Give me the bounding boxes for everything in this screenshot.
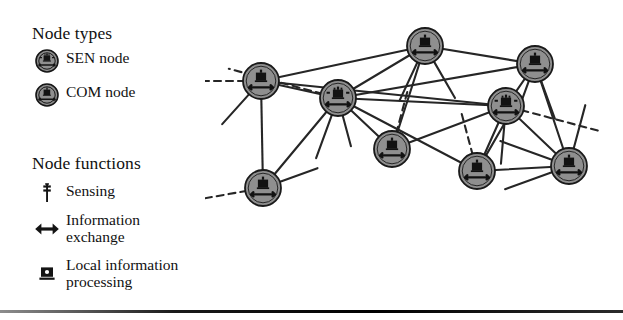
legend-label-com-node: COM node [62,83,135,100]
processing-unit-icon [32,256,62,292]
legend-panel: Node types SEN node [0,0,215,300]
legend-item-information-exchange: Information exchange [32,211,140,247]
network-edge-stub [505,171,554,189]
network-edge [338,98,506,106]
sensing-antenna-icon [32,182,62,204]
network-node-com[interactable] [551,148,587,184]
network-node-com[interactable] [459,153,495,189]
network-node-com[interactable] [245,170,281,206]
network-node-com[interactable] [374,131,410,167]
legend-label-local-processing: Local information processing [62,256,178,290]
legend-label-sen-node: SEN node [62,49,129,66]
bottom-divider-rule [0,310,623,313]
network-node-sen[interactable] [320,80,356,116]
legend-item-com-node: COM node [32,83,135,107]
sen-node-icon [32,49,62,73]
sensor-network-graph [205,8,623,220]
network-edge-stub [222,93,250,124]
com-node-icon [32,83,62,107]
bidirectional-arrow-icon [32,211,62,247]
network-edge-stub [521,110,600,131]
network-figure: Node types SEN node [0,0,623,320]
network-node-com[interactable] [243,63,279,99]
legend-label-sensing: Sensing [62,182,115,199]
network-node-com[interactable] [407,28,443,64]
network-node-com[interactable] [517,46,553,82]
legend-item-local-processing: Local information processing [32,256,178,292]
network-svg [205,8,623,220]
network-edge-stub [461,110,473,155]
network-node-sen[interactable] [488,88,524,124]
network-edge [261,46,425,81]
network-edge-stub [205,191,247,200]
network-edge-stub [342,113,351,146]
network-edge [338,98,477,171]
legend-label-information-exchange: Information exchange [62,211,140,245]
network-edge [261,81,506,106]
legend-heading-node-types: Node types [32,23,112,44]
legend-item-sen-node: SEN node [32,49,129,73]
legend-item-sensing: Sensing [32,182,115,204]
network-edge-stub [278,168,317,182]
legend-heading-node-functions: Node functions [32,153,141,174]
